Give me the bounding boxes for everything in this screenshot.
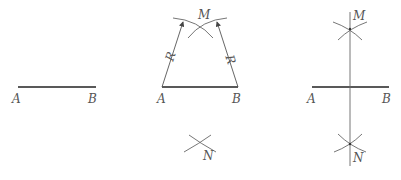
panel-perpendicular-bisector: M N A B [306, 9, 391, 166]
label-r-right: R [222, 52, 238, 66]
label-b: B [231, 92, 241, 106]
arc-m-2 [338, 22, 367, 40]
perpendicular-bisector-construction-diagram: A B M N A B R R M N A B [0, 0, 401, 180]
label-a: A [156, 92, 166, 106]
panel-given-segment: A B [11, 87, 97, 106]
arc-m-1 [333, 22, 362, 40]
label-n: N [352, 151, 364, 165]
point-n [349, 143, 351, 145]
label-r-left: R [162, 50, 178, 64]
label-m: M [197, 8, 211, 22]
label-a: A [306, 92, 316, 106]
label-b: B [87, 92, 97, 106]
point-m [349, 28, 351, 30]
label-n: N [202, 149, 214, 163]
label-b: B [381, 92, 391, 106]
label-m: M [352, 9, 366, 23]
panel-arc-construction: M N A B R R [156, 8, 241, 163]
label-a: A [11, 92, 21, 106]
